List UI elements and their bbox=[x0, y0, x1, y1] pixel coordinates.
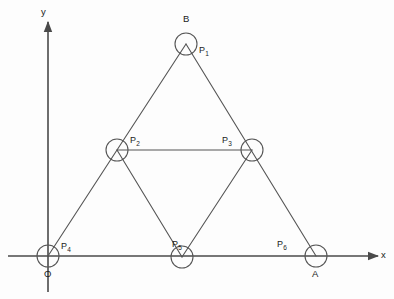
node-label-P3: P3 bbox=[222, 136, 232, 147]
y-axis-label: y bbox=[41, 7, 46, 17]
node-label-P1: P1 bbox=[199, 46, 209, 57]
node-label-P6: P6 bbox=[277, 240, 287, 251]
x-axis-label: x bbox=[381, 250, 386, 260]
vertex-label-O: O bbox=[44, 269, 52, 279]
vertex-label-B: B bbox=[183, 14, 190, 24]
node-sub-P4: 4 bbox=[67, 246, 71, 253]
truss-members bbox=[48, 44, 316, 257]
node-sub-P3: 3 bbox=[228, 140, 232, 147]
node-sub-P2: 2 bbox=[136, 140, 140, 147]
node-label-P2: P2 bbox=[130, 136, 140, 147]
node-sub-P6: 6 bbox=[283, 244, 287, 251]
truss-diagram: x y B O A P1 P2 P3 P4 P5 P6 bbox=[0, 0, 394, 299]
node-label-P4: P4 bbox=[61, 242, 71, 253]
diagram-canvas bbox=[0, 0, 394, 299]
vertex-label-A: A bbox=[312, 269, 319, 279]
node-sub-P5: 5 bbox=[178, 244, 182, 251]
node-sub-P1: 1 bbox=[205, 50, 209, 57]
member-P3-P5 bbox=[182, 150, 252, 257]
node-label-P5: P5 bbox=[172, 240, 182, 251]
